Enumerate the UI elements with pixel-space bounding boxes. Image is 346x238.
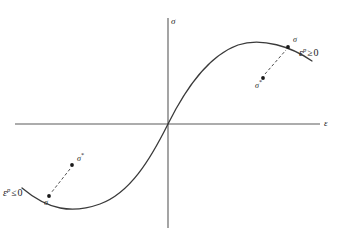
stress-strain-diagram: σ ε σ σ* σ σ* εp≥0 εp≤0 (0, 0, 346, 238)
plastic-strain-rate-nonnegative-label: εp≥0 (299, 48, 318, 59)
plastic-strain-rate-nonpositive-label: εp≤0 (3, 188, 22, 199)
stress-strain-curve (22, 42, 312, 209)
sigma-point-upper-dot (286, 45, 290, 49)
stress-axis-label: σ (171, 17, 175, 26)
sigma-point-lower-label: σ (44, 199, 48, 207)
sigma-star-point-lower-label: σ* (77, 155, 84, 163)
sigma-star-point-lower-dot (70, 163, 74, 167)
sigma-star-point-upper-label: σ* (255, 82, 262, 90)
strain-axis-label: ε (324, 119, 328, 128)
dashed-connector-lower (51, 169, 70, 193)
sigma-point-upper-label: σ (293, 36, 297, 44)
axes-group (15, 18, 320, 228)
dashed-connector-upper (265, 50, 286, 74)
